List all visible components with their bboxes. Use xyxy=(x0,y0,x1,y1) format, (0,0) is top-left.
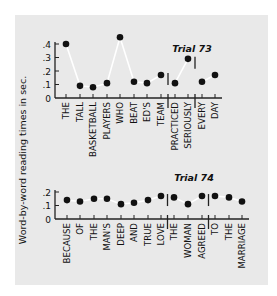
data-point xyxy=(117,34,124,41)
data-point xyxy=(185,201,192,208)
x-category-label: OF xyxy=(75,223,85,235)
data-line xyxy=(66,37,161,87)
data-point xyxy=(118,201,125,208)
data-point xyxy=(104,80,111,87)
data-point xyxy=(158,72,165,79)
x-category-label: DEEP xyxy=(116,223,126,246)
x-category-label: MARRIAGE xyxy=(237,223,247,269)
y-tick-label: 0 xyxy=(45,94,51,104)
data-point xyxy=(145,197,152,204)
x-category-label: PRACTICED xyxy=(170,102,180,151)
x-category-label: WHO xyxy=(115,102,125,124)
x-category-label: THE xyxy=(169,223,179,241)
x-category-label: LOVE xyxy=(156,223,166,245)
y-tick-label: 0 xyxy=(45,215,51,225)
data-point xyxy=(199,79,206,86)
data-line xyxy=(175,59,188,83)
x-category-label: EVERY xyxy=(197,101,207,129)
x-category-label: THE xyxy=(61,102,71,120)
x-category-label: AGREED xyxy=(197,223,207,259)
x-category-label: PLAYERS xyxy=(102,102,112,139)
data-point xyxy=(171,194,178,201)
x-category-label: TEAM xyxy=(156,102,166,127)
x-category-label: THE xyxy=(224,223,234,241)
x-category-label: AND xyxy=(129,223,139,242)
x-category-label: TALL xyxy=(75,102,85,123)
y-tick-label: .2 xyxy=(42,188,51,198)
trial-label: Trial 73 xyxy=(172,43,212,54)
x-category-label: BEAT xyxy=(129,101,139,124)
data-point xyxy=(90,84,97,91)
x-category-label: ED'S xyxy=(142,102,152,122)
chart-trial-73: 0.1.2.3.4THETALLBASKETBALLPLAYERSWHOBEAT… xyxy=(42,34,222,157)
data-point xyxy=(144,80,151,87)
x-category-label: TRUE xyxy=(143,223,153,247)
x-category-label: WOMAN xyxy=(183,223,193,258)
y-tick-label: .1 xyxy=(42,80,51,90)
data-point xyxy=(104,195,111,202)
x-category-label: THE xyxy=(89,223,99,241)
y-tick-label: .3 xyxy=(42,53,51,63)
data-point xyxy=(172,80,179,87)
data-point xyxy=(239,198,246,205)
trial-label: Trial 74 xyxy=(174,172,214,183)
chart-trial-74: 0.1.2BECAUSEOFTHEMAN'SDEEPANDTRUELOVETHE… xyxy=(42,172,249,269)
data-point xyxy=(212,193,219,200)
data-point xyxy=(91,195,98,202)
data-point xyxy=(212,72,219,79)
x-category-label: SERIOUSLY xyxy=(183,101,193,149)
data-point xyxy=(131,79,138,86)
y-axis-label: Word-by-word reading times in sec. xyxy=(17,76,28,244)
data-point xyxy=(226,194,233,201)
reading-times-figure: Word-by-word reading times in sec. 0.1.2… xyxy=(0,0,277,296)
y-tick-label: .4 xyxy=(42,40,51,50)
data-point xyxy=(185,56,192,63)
x-category-label: MAN'S xyxy=(102,223,112,251)
data-point xyxy=(63,41,70,48)
data-point xyxy=(199,193,206,200)
y-tick-label: .1 xyxy=(42,201,51,211)
data-point xyxy=(64,197,71,204)
data-point xyxy=(77,83,84,90)
data-point xyxy=(131,200,138,207)
x-category-label: TO xyxy=(210,223,220,236)
data-point xyxy=(77,198,84,205)
x-category-label: BECAUSE xyxy=(62,223,72,263)
x-category-label: DAY xyxy=(210,101,220,119)
data-point xyxy=(158,193,165,200)
y-tick-label: .2 xyxy=(42,67,51,77)
x-category-label: BASKETBALL xyxy=(88,102,98,157)
